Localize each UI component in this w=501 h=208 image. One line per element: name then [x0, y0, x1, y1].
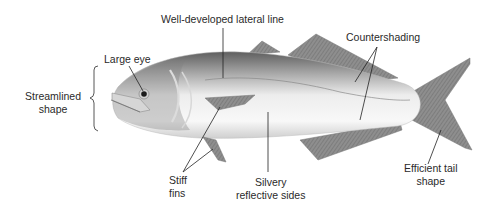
streamlined-bracket: [90, 66, 98, 131]
label-stiff-fins-line2: fins: [169, 187, 187, 200]
pelvic-fin: [203, 137, 226, 162]
label-streamlined-line2: shape: [25, 103, 81, 116]
label-tail-line1: Efficient tail: [404, 162, 458, 175]
label-tail-line2: shape: [404, 175, 458, 188]
label-tail-shape: Efficient tail shape: [404, 162, 458, 188]
label-silvery-line2: reflective sides: [236, 189, 305, 202]
label-stiff-fins: Stiff fins: [169, 174, 187, 200]
label-countershading: Countershading: [346, 31, 420, 44]
label-streamlined-line1: Streamlined: [25, 90, 81, 103]
label-silvery-sides: Silvery reflective sides: [236, 176, 305, 202]
fish-adaptations-diagram: Well-developed lateral line Large eye Co…: [0, 0, 501, 208]
label-streamlined-shape: Streamlined shape: [25, 90, 81, 116]
label-stiff-fins-line1: Stiff: [169, 174, 187, 187]
label-large-eye: Large eye: [104, 53, 151, 66]
tail-fin: [412, 58, 472, 150]
label-lateral-line: Well-developed lateral line: [161, 13, 284, 26]
eye: [139, 89, 149, 99]
label-silvery-line1: Silvery: [236, 176, 305, 189]
